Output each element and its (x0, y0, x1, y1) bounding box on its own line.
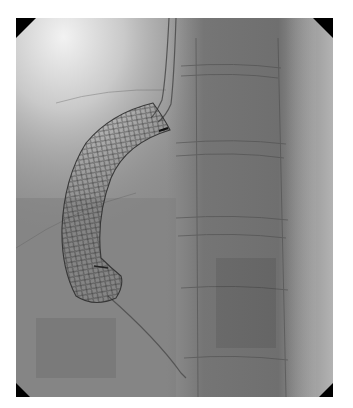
xray-content (16, 18, 333, 397)
corner-mask-bottom-left (16, 383, 30, 397)
corner-mask-top-right (313, 18, 333, 38)
corner-mask-bottom-right (319, 383, 333, 397)
corner-mask-top-left (16, 18, 36, 38)
fluoroscopy-image: Fluoroscopic image of a curved mesh sten… (16, 18, 333, 397)
